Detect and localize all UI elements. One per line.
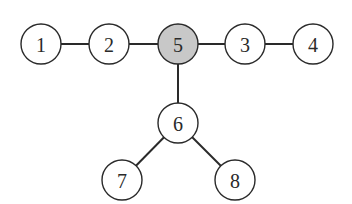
node-label: 6: [173, 113, 183, 135]
node-3: 3: [225, 24, 265, 64]
node-label: 2: [104, 34, 114, 56]
node-1: 1: [21, 24, 61, 64]
node-5: 5: [158, 24, 198, 64]
node-6: 6: [158, 103, 198, 143]
node-label: 8: [230, 170, 240, 192]
node-7: 7: [102, 160, 142, 200]
tree-diagram: 12534678: [0, 0, 352, 204]
node-label: 5: [173, 34, 183, 56]
node-8: 8: [215, 160, 255, 200]
node-4: 4: [293, 24, 333, 64]
nodes-layer: 12534678: [21, 24, 333, 200]
node-label: 4: [308, 34, 318, 56]
node-2: 2: [89, 24, 129, 64]
node-label: 3: [240, 34, 250, 56]
node-label: 7: [117, 170, 127, 192]
node-label: 1: [36, 34, 46, 56]
